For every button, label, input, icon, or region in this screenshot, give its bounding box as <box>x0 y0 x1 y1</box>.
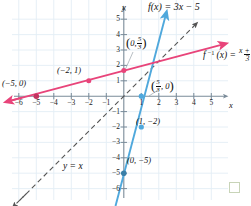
inverse-label-mid: (x) = <box>217 51 236 61</box>
y-tick-label: 5 <box>116 15 120 23</box>
identity-line-label: y = x <box>63 162 83 172</box>
point-y-fraction: 5 3 <box>137 36 142 51</box>
y-tick-label: 1 <box>116 77 120 85</box>
identity-line-arrow-start <box>14 194 26 206</box>
y-tick-label: −5 <box>112 169 120 177</box>
y-tick-label: −1 <box>112 108 120 116</box>
inverse-function-graph-figure: f(x) = 3x − 5 f−1 (x) = x + 5 3 y = x x … <box>0 0 251 206</box>
point-y-numerator: 5 <box>137 36 142 43</box>
point-label-0-minus5: (0, −5) <box>127 156 151 165</box>
x-tick-label: 3 <box>174 99 178 107</box>
y-tick-label: 2 <box>116 62 120 70</box>
point-x-value: 0, <box>130 39 136 48</box>
close-paren: ) <box>169 81 173 91</box>
x-tick-label: −3 <box>67 99 75 107</box>
tick-marks <box>19 19 212 188</box>
inverse-label-prefix: f <box>203 51 206 61</box>
point-y-denominator: 3 <box>137 43 142 51</box>
x-axis-label: x <box>229 101 233 110</box>
point-label-group: ( 0, 5 3 ) <box>126 36 147 51</box>
open-paren: ( <box>126 38 130 48</box>
x-tick-label: 2 <box>157 99 161 107</box>
point-x-numerator: 5 <box>156 79 161 86</box>
y-axis-label: y <box>122 3 126 12</box>
point-x-denominator: 3 <box>156 86 161 94</box>
y-tick-label: −6 <box>112 185 120 193</box>
x-tick-label: 1 <box>139 99 143 107</box>
x-tick-label: −6 <box>15 99 23 107</box>
point-label-group: ( 5 3 , 0 ) <box>151 79 174 94</box>
point-label-minus5-0: (−5, 0) <box>2 79 26 88</box>
x-tick-label: 4 <box>192 99 196 107</box>
x-tick-label: 5 <box>209 99 213 107</box>
green-square-marker <box>229 182 240 193</box>
y-tick-label: 3 <box>116 46 120 54</box>
x-tick-label: −2 <box>85 99 93 107</box>
point-y-value: , 0 <box>161 82 170 91</box>
y-tick-label: −3 <box>112 139 120 147</box>
y-tick-label: −4 <box>112 154 120 162</box>
y-tick-label: 4 <box>116 31 120 39</box>
y-tick-label: −2 <box>112 123 120 131</box>
inverse-label-fraction: x + 5 3 <box>238 47 251 64</box>
x-tick-label: −5 <box>32 99 40 107</box>
point-x-fraction: 5 3 <box>156 79 161 94</box>
inverse-denominator: 3 <box>244 54 250 63</box>
point-label-f-inverse-y-intercept: ( 0, 5 3 ) <box>126 36 147 51</box>
x-tick-label: −4 <box>50 99 58 107</box>
point-label-f-x-intercept: ( 5 3 , 0 ) <box>151 79 174 94</box>
function-title-label: f(x) = 3x − 5 <box>148 2 200 12</box>
inverse-numerator: x + 5 <box>238 47 251 55</box>
point-label-minus2-1: (−2, 1) <box>57 66 81 75</box>
inverse-function-label: f−1 (x) = x + 5 3 <box>203 47 251 64</box>
point-label-1-minus2: (1, −2) <box>136 117 160 126</box>
close-paren: ) <box>142 38 146 48</box>
inverse-label-superscript: −1 <box>208 50 215 56</box>
x-tick-label: −1 <box>102 99 110 107</box>
